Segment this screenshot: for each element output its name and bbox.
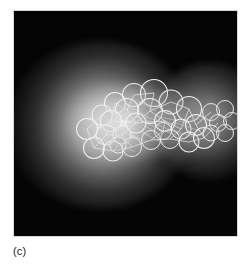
atom-sphere: [155, 123, 172, 140]
figure-caption: (c): [13, 244, 26, 258]
figure-panel: [13, 10, 238, 237]
atom-sphere: [77, 119, 98, 140]
atom-sphere: [84, 138, 105, 159]
atom-sphere: [110, 137, 126, 153]
atom-spheres-right-cluster: [203, 101, 239, 142]
molecular-structure-overlay: [14, 11, 237, 236]
atom-spheres: [77, 80, 215, 162]
atom-sphere: [217, 125, 234, 142]
